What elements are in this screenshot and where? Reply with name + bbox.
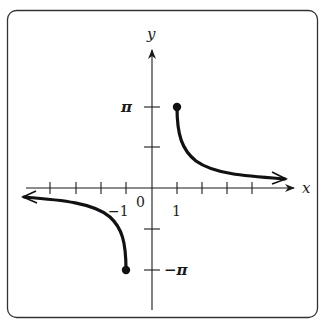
x-axis-label: x bbox=[302, 179, 311, 197]
function-graph: x y 0 −1 1 π −π bbox=[0, 0, 322, 328]
y-tick-label-neg-pi: −π bbox=[164, 261, 189, 279]
x-axis: x bbox=[26, 179, 311, 197]
x-tick-label-one: 1 bbox=[172, 203, 181, 219]
origin-label: 0 bbox=[136, 194, 145, 210]
y-axis: y bbox=[144, 25, 160, 310]
curve-right-branch bbox=[173, 103, 286, 184]
closed-point-left bbox=[122, 266, 130, 274]
y-tick-label-pi: π bbox=[120, 98, 133, 116]
closed-point-right bbox=[173, 103, 181, 111]
graph-frame bbox=[8, 11, 318, 318]
y-axis-label: y bbox=[146, 25, 156, 43]
